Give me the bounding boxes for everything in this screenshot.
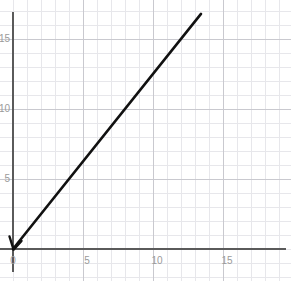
y-tick-label-15: 15 — [0, 34, 10, 44]
x-tick-label-15: 15 — [221, 256, 232, 266]
plot-area — [0, 0, 291, 281]
x-tick-label-10: 10 — [151, 256, 162, 266]
x-tick-label-5: 5 — [84, 256, 90, 266]
line-chart-figure: 0 5 10 15 5 10 15 — [0, 0, 291, 281]
y-tick-label-5: 5 — [0, 174, 10, 184]
y-tick-label-10: 10 — [0, 104, 10, 114]
chart-background — [0, 0, 291, 281]
x-tick-label-0: 0 — [10, 256, 16, 266]
